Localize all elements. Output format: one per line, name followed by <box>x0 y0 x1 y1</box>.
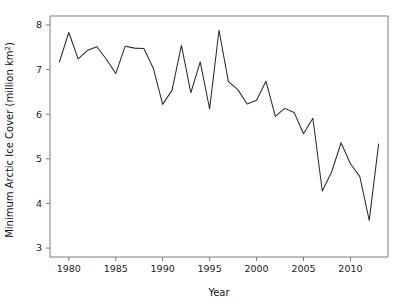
y-tick-label-6: 6 <box>36 109 42 120</box>
y-tick-label-4: 4 <box>36 198 42 209</box>
x-tick-label-1985: 1985 <box>104 263 128 274</box>
x-tick-label-1980: 1980 <box>57 263 81 274</box>
y-tick-label-5: 5 <box>36 153 42 164</box>
chart-background <box>0 0 400 303</box>
y-axis-title: Minimum Arctic Ice Cover (million km2) <box>4 42 15 238</box>
line-chart-canvas: 1980198519901995200020052010 345678 Year… <box>0 0 400 303</box>
chart-figure: 1980198519901995200020052010 345678 Year… <box>0 0 400 303</box>
y-axis-title-main: Minimum Arctic Ice Cover (million km <box>4 51 15 238</box>
x-tick-label-1995: 1995 <box>198 263 222 274</box>
y-axis-title-tail: ) <box>4 42 15 46</box>
x-tick-label-2005: 2005 <box>291 263 315 274</box>
x-tick-label-2000: 2000 <box>244 263 268 274</box>
y-tick-label-7: 7 <box>36 64 42 75</box>
x-axis-title: Year <box>207 287 230 298</box>
y-tick-label-8: 8 <box>36 19 42 30</box>
x-tick-label-1990: 1990 <box>151 263 175 274</box>
x-tick-label-2010: 2010 <box>338 263 362 274</box>
y-tick-label-3: 3 <box>36 242 42 253</box>
